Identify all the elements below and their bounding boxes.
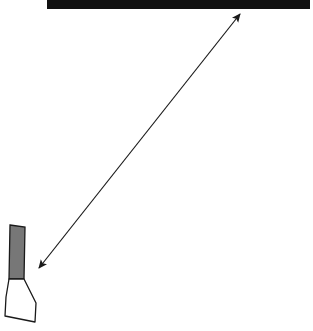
gray-upper-section (9, 225, 25, 279)
diagram-svg (0, 0, 313, 331)
diagram-canvas (0, 0, 313, 331)
container-object-icon (5, 225, 36, 322)
white-lower-section (5, 279, 36, 322)
double-arrow-line (39, 14, 240, 268)
